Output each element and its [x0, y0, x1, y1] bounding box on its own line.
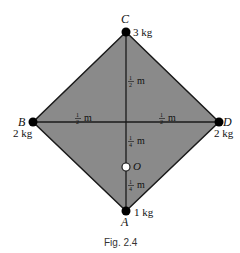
svg-text:1: 1: [129, 75, 132, 81]
mass-point-c: [122, 28, 131, 37]
label-c: C: [121, 12, 130, 26]
mass-b: 2 kg: [13, 127, 33, 139]
svg-text:m: m: [168, 112, 176, 123]
svg-text:4: 4: [129, 186, 132, 192]
mass-a: 1 kg: [134, 206, 154, 218]
svg-text:1: 1: [76, 112, 79, 118]
svg-text:1: 1: [129, 179, 132, 185]
svg-text:1: 1: [160, 112, 163, 118]
mass-c: 3 kg: [133, 26, 153, 38]
mass-d: 2 kg: [214, 127, 234, 139]
label-a: A: [120, 215, 129, 229]
svg-text:2: 2: [129, 82, 132, 88]
point-o: [122, 163, 130, 171]
mass-point-b: [29, 118, 38, 127]
svg-text:m: m: [84, 112, 92, 123]
svg-text:2: 2: [160, 119, 163, 125]
svg-text:m: m: [137, 135, 145, 146]
svg-text:2: 2: [76, 119, 79, 125]
svg-text:4: 4: [129, 142, 132, 148]
svg-text:m: m: [137, 179, 145, 190]
label-o: O: [133, 160, 141, 172]
figure-caption: Fig. 2.4: [104, 237, 138, 248]
rhombus-diagram: C 3 kg B 2 kg D 2 kg A 1 kg O 1 2 m 1 2 …: [0, 0, 240, 253]
svg-text:m: m: [137, 75, 145, 86]
svg-text:1: 1: [129, 135, 132, 141]
